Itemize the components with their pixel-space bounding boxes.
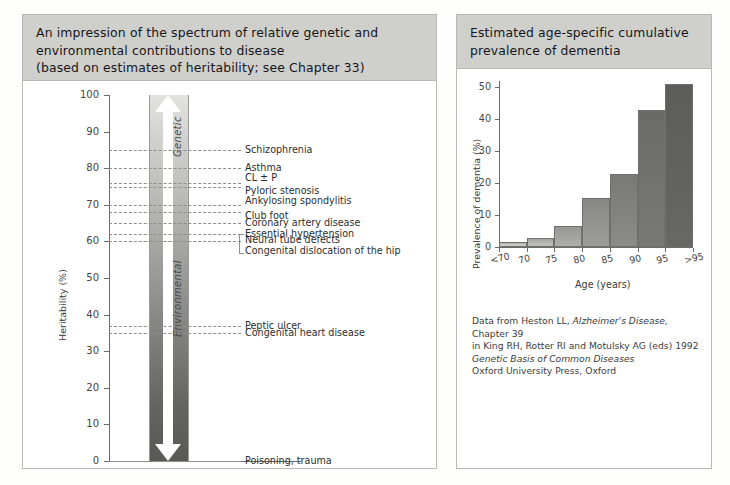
leader-line <box>109 187 241 188</box>
left-tick-label-40: 40 <box>75 310 99 320</box>
disease-label: Pyloric stenosis <box>245 186 319 196</box>
left-title-line-2: environmental contributions to disease <box>36 42 423 60</box>
leader-line <box>109 461 241 462</box>
right-tick-mark <box>495 87 499 88</box>
right-tick-mark <box>495 151 499 152</box>
right-x-tick-label-90: 90 <box>628 252 642 266</box>
disease-label: Coronary artery disease <box>245 218 360 228</box>
leader-line <box>109 205 241 206</box>
paired-label-brace <box>239 234 244 254</box>
right-tick-label-40: 40 <box>473 114 491 124</box>
left-tick-label-10: 10 <box>75 419 99 429</box>
right-title-line-1: Estimated age-specific cumulative <box>470 24 698 42</box>
right-tick-label-20: 20 <box>473 178 491 188</box>
disease-label: CL ± P <box>245 173 277 183</box>
left-tick-mark <box>104 278 109 279</box>
right-x-axis-title: Age (years) <box>575 279 631 290</box>
leader-line <box>109 333 241 334</box>
left-tick-mark <box>104 388 109 389</box>
bar-75 <box>554 226 582 247</box>
right-x-tick-label-85: 85 <box>600 252 614 266</box>
arrow-down-icon <box>155 444 181 461</box>
left-tick-label-80: 80 <box>75 163 99 173</box>
right-tick-label-0: 0 <box>473 242 491 252</box>
bar-85 <box>610 174 638 247</box>
disease-label: Congenital heart disease <box>245 328 365 338</box>
right-title-line-2: prevalence of dementia <box>470 42 698 60</box>
arrow-up-icon <box>155 95 181 112</box>
left-tick-label-100: 100 <box>75 90 99 100</box>
source-line-1-italic: Alzheimer's Disease, <box>573 315 668 326</box>
dementia-bar-chart: Prevalence of dementia (%) 01020304050 <… <box>457 69 711 299</box>
right-x-tick-label-95: 95 <box>655 252 669 266</box>
leader-line <box>109 183 241 184</box>
source-line-4: Oxford University Press, Oxford <box>472 365 702 378</box>
left-title-line-3: (based on estimates of heritability; see… <box>36 59 423 77</box>
disease-label: Congenital dislocation of the hip <box>245 246 401 256</box>
right-x-tick-label-<70: <70 <box>489 250 511 265</box>
right-x-tick-label-80: 80 <box>572 252 586 266</box>
right-x-tick-label->95: >95 <box>683 250 705 265</box>
right-y-axis-line <box>499 81 500 247</box>
left-title-line-1: An impression of the spectrum of relativ… <box>36 24 423 42</box>
left-panel-header: An impression of the spectrum of relativ… <box>23 15 436 81</box>
leader-line <box>109 234 241 235</box>
right-x-axis-line <box>499 247 693 248</box>
leader-line <box>109 212 241 213</box>
disease-label: Schizophrenia <box>245 145 312 155</box>
page-canvas: An impression of the spectrum of relativ… <box>0 0 730 485</box>
right-tick-label-50: 50 <box>473 82 491 92</box>
right-tick-mark <box>495 215 499 216</box>
left-tick-label-20: 20 <box>75 383 99 393</box>
leader-line <box>109 241 241 242</box>
left-tick-label-60: 60 <box>75 236 99 246</box>
right-tick-label-10: 10 <box>473 210 491 220</box>
left-tick-label-70: 70 <box>75 200 99 210</box>
right-x-tick-label-75: 75 <box>544 252 558 266</box>
right-x-tick-label-70: 70 <box>517 252 531 266</box>
source-citation: Data from Heston LL, Alzheimer's Disease… <box>472 315 702 378</box>
bar-<70 <box>499 242 527 247</box>
bar-70 <box>527 238 555 247</box>
source-line-1-b: Chapter 39 <box>472 328 523 339</box>
left-tick-label-50: 50 <box>75 273 99 283</box>
panel-heritability-spectrum: An impression of the spectrum of relativ… <box>22 14 437 469</box>
left-tick-mark <box>104 424 109 425</box>
leader-line <box>109 150 241 151</box>
genetic-arrow-label: Genetic <box>172 117 183 158</box>
left-y-axis-label: Heritability (%) <box>57 269 68 341</box>
disease-label: Ankylosing spondylitis <box>245 196 352 206</box>
left-tick-label-90: 90 <box>75 127 99 137</box>
left-tick-mark <box>104 132 109 133</box>
left-tick-label-30: 30 <box>75 346 99 356</box>
leader-line <box>109 326 241 327</box>
panel-dementia-prevalence: Estimated age-specific cumulative preval… <box>456 14 712 469</box>
left-tick-mark <box>104 315 109 316</box>
source-line-2: in King RH, Rotter RI and Motulsky AG (e… <box>472 340 702 353</box>
heritability-chart: Heritability (%) Genetic Environmental 0… <box>23 81 436 467</box>
bar-90 <box>638 110 666 247</box>
disease-label: Poisoning, trauma <box>245 456 332 466</box>
leader-line <box>109 168 241 169</box>
source-line-1-a: Data from Heston LL, <box>472 315 573 326</box>
bar-95 <box>665 84 693 247</box>
right-tick-mark <box>495 183 499 184</box>
source-line-3: Genetic Basis of Common Diseases <box>472 353 702 366</box>
right-tick-mark <box>495 119 499 120</box>
left-tick-mark <box>104 95 109 96</box>
leader-line <box>109 223 241 224</box>
source-line-1: Data from Heston LL, Alzheimer's Disease… <box>472 315 702 340</box>
right-tick-label-30: 30 <box>473 146 491 156</box>
right-panel-header: Estimated age-specific cumulative preval… <box>457 15 711 69</box>
bar-80 <box>582 198 610 247</box>
left-tick-label-0: 0 <box>75 456 99 466</box>
disease-label: Neural tube defects <box>245 235 340 245</box>
left-tick-mark <box>104 351 109 352</box>
